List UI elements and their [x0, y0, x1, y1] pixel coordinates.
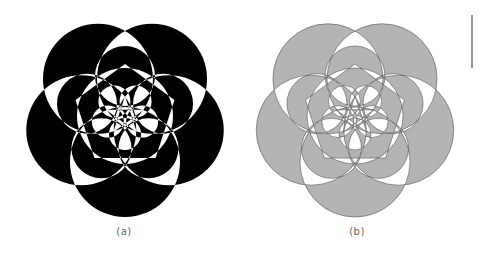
figure-b-rosette — [230, 0, 480, 225]
figure-a-rosette — [0, 0, 250, 225]
rosette-a-shape — [26, 24, 223, 217]
rosette-b-shape — [256, 24, 453, 217]
caption-b: (b) — [349, 226, 365, 237]
caption-a: (a) — [116, 226, 131, 237]
vertical-divider-line — [471, 15, 473, 68]
